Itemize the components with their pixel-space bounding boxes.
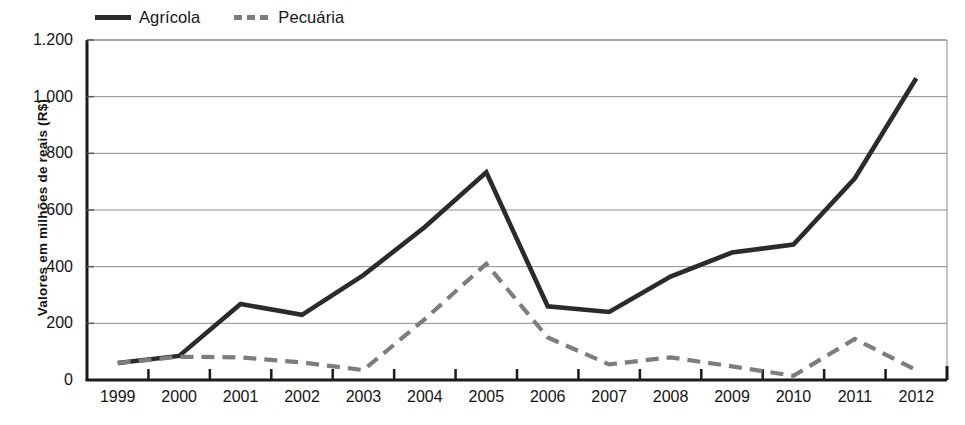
series-line-pecuria — [118, 264, 917, 376]
plot-canvas — [0, 0, 965, 425]
series-line-agrcola — [118, 78, 917, 363]
line-chart-figure: Agrícola Pecuária Valores em milhões de … — [0, 0, 965, 425]
